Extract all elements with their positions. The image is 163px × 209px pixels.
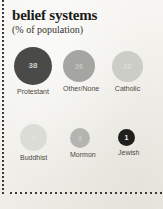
bubble-label: Buddhist xyxy=(20,153,47,162)
bubble-value: 22 xyxy=(124,63,132,70)
bubble-group-protestant[interactable]: 38Protestant xyxy=(14,47,52,96)
bubble-group-catholic[interactable]: 22Catholic xyxy=(112,51,143,93)
bubble-group-other-none[interactable]: 26Other/None xyxy=(63,50,95,93)
dotted-bottom-rule xyxy=(10,192,163,194)
bubble-circle[interactable]: 38 xyxy=(14,47,52,85)
bubble-circle[interactable]: 22 xyxy=(112,51,143,82)
page-title: belief systems xyxy=(12,7,97,23)
bubble-circle[interactable]: 3 xyxy=(70,128,90,148)
bubble-circle[interactable]: 26 xyxy=(63,50,95,82)
bubble-value: 1 xyxy=(125,134,129,141)
bubble-label: Jewish xyxy=(118,148,135,157)
bubble-label: Catholic xyxy=(112,84,143,93)
bubble-label: Protestant xyxy=(14,87,52,96)
bubble-value: 26 xyxy=(75,63,83,70)
bubble-value: 38 xyxy=(29,62,38,70)
bubble-group-mormon[interactable]: 3Mormon xyxy=(70,128,90,159)
bubble-label: Other/None xyxy=(63,84,95,93)
page-subtitle: (% of population) xyxy=(12,24,83,36)
bubble-label: Mormon xyxy=(70,150,90,159)
belief-systems-infographic: belief systems (% of population) 38Prote… xyxy=(0,0,163,209)
bubble-value: 3 xyxy=(78,135,82,142)
bubble-circle[interactable]: 1 xyxy=(20,124,47,151)
bubble-group-jewish[interactable]: 1Jewish xyxy=(118,129,135,157)
bubble-group-buddhist[interactable]: 1Buddhist xyxy=(20,124,47,162)
bubble-value: 1 xyxy=(32,134,36,141)
bubble-circle[interactable]: 1 xyxy=(118,129,135,146)
dotted-left-rule xyxy=(2,0,4,196)
